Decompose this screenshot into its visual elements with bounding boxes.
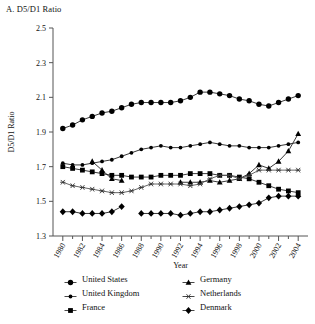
square-marker — [257, 180, 262, 185]
y-tick-label: 1.9 — [36, 128, 46, 137]
asterisk-marker — [158, 182, 163, 187]
diamond-marker — [119, 203, 125, 210]
series-group — [60, 89, 302, 218]
square-marker — [64, 302, 77, 313]
diamond-marker — [285, 193, 291, 200]
circle-marker — [60, 126, 65, 131]
diamond-marker — [256, 200, 262, 207]
square-marker — [90, 169, 95, 174]
circle-marker — [90, 114, 95, 119]
legend-label: France — [82, 302, 105, 312]
small-circle-marker — [218, 142, 222, 146]
legend-label: Germany — [200, 274, 232, 284]
circle-marker — [276, 100, 281, 105]
square-marker — [60, 164, 65, 169]
small-circle-marker — [296, 141, 300, 145]
circle-marker — [227, 93, 232, 98]
y-tick-label: 1.3 — [36, 232, 46, 241]
y-tick-label: 2.1 — [36, 93, 46, 102]
asterisk-marker — [186, 294, 191, 299]
circle-marker — [99, 110, 104, 115]
asterisk-marker — [60, 180, 65, 185]
y-tick-label: 1.5 — [36, 197, 46, 206]
triangle-marker — [182, 274, 195, 285]
small-circle-marker — [81, 163, 85, 167]
diamond-marker — [275, 193, 281, 200]
circle-marker — [109, 109, 114, 114]
circle-marker — [68, 279, 73, 284]
y-axis-title: D5/D1 Ratio — [7, 111, 16, 152]
diamond-marker — [148, 210, 154, 217]
y-tick-label: 1.7 — [36, 163, 46, 172]
small-circle-marker — [69, 294, 73, 298]
square-marker — [119, 173, 124, 178]
small-circle-marker — [100, 160, 104, 164]
asterisk-marker — [168, 182, 173, 187]
square-marker — [80, 168, 85, 173]
circle-marker — [197, 89, 202, 94]
diamond-marker — [168, 210, 174, 217]
x-axis-title: Year — [173, 261, 188, 270]
small-circle-marker — [64, 288, 77, 299]
small-circle-marker — [247, 146, 251, 150]
circle-marker — [139, 100, 144, 105]
triangle-marker — [89, 158, 95, 163]
square-marker — [129, 175, 134, 180]
triangle-marker — [295, 131, 301, 136]
x-tick-label: 2004 — [287, 242, 303, 260]
legend-item-united-kingdom[interactable]: United Kingdom — [64, 286, 182, 300]
legend-label: Denmark — [200, 302, 232, 312]
small-circle-marker — [198, 142, 202, 146]
diamond-marker — [217, 207, 223, 214]
circle-marker — [158, 100, 163, 105]
legend-item-denmark[interactable]: Denmark — [182, 300, 302, 314]
x-tick-label: 1980 — [52, 242, 68, 260]
circle-marker — [246, 98, 251, 103]
asterisk-marker — [148, 182, 153, 187]
small-circle-marker — [286, 142, 290, 146]
triangle-marker — [285, 148, 291, 153]
diamond-marker — [138, 210, 144, 217]
small-circle-marker — [277, 144, 281, 148]
small-circle-marker — [237, 144, 241, 148]
asterisk-marker — [286, 168, 291, 173]
legend-item-germany[interactable]: Germany — [182, 272, 302, 286]
circle-marker — [80, 117, 85, 122]
square-marker — [139, 175, 144, 180]
diamond-marker — [266, 194, 272, 201]
diamond-marker — [197, 208, 203, 215]
line-chart: 1.31.51.71.92.12.32.5 198019821984198619… — [0, 0, 315, 270]
diamond-marker — [187, 210, 193, 217]
square-marker — [70, 166, 75, 171]
x-tick-label: 1990 — [150, 242, 166, 260]
legend-label: United States — [82, 274, 128, 284]
circle-marker — [119, 105, 124, 110]
diamond-marker — [182, 302, 195, 313]
circle-marker — [217, 91, 222, 96]
small-circle-marker — [228, 144, 232, 148]
series-denmark — [60, 193, 302, 219]
circle-marker — [148, 100, 153, 105]
legend-item-france[interactable]: France — [64, 300, 182, 314]
x-tick-label: 1992 — [169, 242, 185, 260]
diamond-marker — [236, 203, 242, 210]
legend-item-united-states[interactable]: United States — [64, 272, 182, 286]
circle-marker — [295, 93, 300, 98]
square-marker — [168, 173, 173, 178]
diamond-marker — [246, 201, 252, 208]
diamond-marker — [109, 208, 115, 215]
diamond-marker — [226, 205, 232, 212]
legend-item-netherlands[interactable]: Netherlands — [182, 286, 302, 300]
small-circle-marker — [208, 141, 212, 145]
square-marker — [208, 171, 213, 176]
small-circle-marker — [257, 146, 261, 150]
square-marker — [158, 173, 163, 178]
x-tick-label: 1984 — [91, 242, 107, 260]
circle-marker — [188, 95, 193, 100]
asterisk-marker — [296, 168, 301, 173]
y-axis: 1.31.51.71.92.12.32.5 — [36, 24, 53, 241]
square-marker — [286, 189, 291, 194]
y-tick-label: 2.3 — [36, 59, 46, 68]
asterisk-marker — [182, 288, 195, 299]
legend-label: United Kingdom — [82, 288, 139, 298]
